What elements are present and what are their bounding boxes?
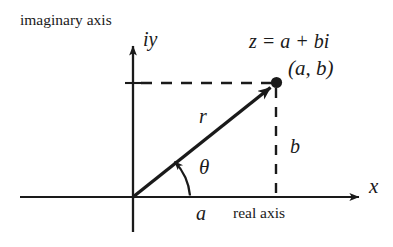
angle-arc xyxy=(175,162,191,196)
real-axis-label: real axis xyxy=(233,205,285,221)
imaginary-axis-label: imaginary axis xyxy=(20,12,112,28)
angle-theta-label: θ xyxy=(199,157,209,178)
z-equation-label: z = a + bi xyxy=(249,31,329,51)
modulus-label: r xyxy=(199,106,207,126)
imaginary-part-label: b xyxy=(290,136,300,156)
modulus-vector-arrow xyxy=(133,88,271,198)
point-coordinates-label: (a, b) xyxy=(288,58,334,79)
imaginary-axis-symbol-label: iy xyxy=(143,29,157,49)
complex-plane-figure: imaginary axis iy z = a + bi (a, b) r b … xyxy=(0,0,393,247)
real-axis-symbol-label: x xyxy=(369,176,378,197)
point-marker xyxy=(271,77,282,88)
real-part-label: a xyxy=(196,203,206,223)
